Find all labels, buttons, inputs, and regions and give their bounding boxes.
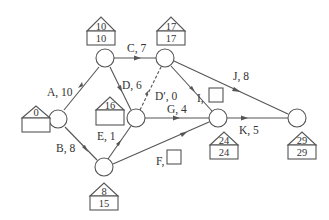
node-2 (96, 49, 114, 67)
arrow-f-icon (180, 132, 187, 137)
early-time: 16 (105, 100, 116, 111)
node-3 (156, 49, 174, 67)
label-k: K, 5 (239, 124, 259, 137)
arrow-e-icon (116, 140, 121, 146)
node-4 (127, 109, 145, 127)
label-i: I, (197, 92, 204, 105)
late-time: 17 (166, 33, 177, 44)
label-f: F, (156, 155, 164, 168)
late-time: 29 (297, 147, 308, 158)
label-d: D, 6 (122, 79, 142, 92)
timebox-node-3: 17 17 (157, 17, 185, 45)
node-5 (95, 158, 113, 176)
late-time: 15 (99, 198, 110, 209)
arrow-g-icon (173, 116, 180, 121)
label-a: A, 10 (47, 86, 73, 99)
timebox-node-2: 10 10 (87, 17, 115, 45)
node-7 (288, 109, 306, 127)
early-time: 24 (219, 135, 230, 146)
late-time: 24 (219, 147, 230, 158)
network-diagram: 0 10 10 17 17 16 8 15 (0, 0, 329, 220)
timebox-node-5: 8 15 (90, 183, 118, 210)
arrow-k-icon (241, 116, 248, 121)
node-1 (49, 110, 67, 128)
label-e: E, 1 (97, 130, 116, 143)
early-time: 29 (297, 135, 308, 146)
arrow-j-icon (232, 87, 241, 92)
label-g: G, 4 (167, 103, 187, 116)
edge-d-prime (140, 67, 161, 110)
label-j: J, 8 (233, 70, 249, 83)
early-time: 17 (166, 21, 177, 32)
label-b: B, 8 (56, 142, 75, 155)
timebox-node-4: 16 (96, 97, 124, 125)
node-6 (209, 109, 227, 127)
late-time: 10 (96, 33, 107, 44)
blank-box-i (209, 88, 223, 102)
early-time: 10 (96, 21, 107, 32)
arrow-c-icon (134, 56, 141, 61)
early-time: 8 (101, 186, 106, 197)
blank-box-f (167, 150, 181, 164)
arrow-d-prime-icon (145, 90, 149, 96)
label-c: C, 7 (127, 42, 146, 55)
label-d-prime: D′, 0 (155, 90, 178, 103)
timebox-node-6: 24 24 (210, 132, 238, 159)
early-time: 0 (33, 107, 38, 118)
timebox-node-1: 0 (22, 106, 50, 132)
timebox-node-7: 29 29 (288, 132, 316, 159)
